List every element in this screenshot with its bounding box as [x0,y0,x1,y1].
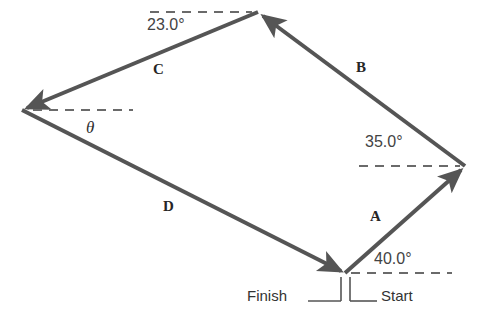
vector-d-line [22,110,341,271]
angle-label-theta: θ [86,119,94,136]
vector-b-line [263,16,465,166]
vector-label-c: C [153,62,164,77]
start-finish-bracket [308,277,377,301]
vector-label-b: B [356,60,366,75]
vector-c-line [27,12,258,108]
start-label: Start [381,288,413,303]
angle-label-35: 35.0° [365,134,403,150]
vector-diagram-canvas [0,0,477,326]
vector-diagram: C B D A 23.0° 35.0° 40.0° θ Finish Start [0,0,477,326]
angle-label-23: 23.0° [147,17,185,33]
finish-label: Finish [247,288,287,303]
vector-label-d: D [163,199,174,214]
vector-label-a: A [370,209,381,224]
angle-label-40: 40.0° [374,251,412,267]
